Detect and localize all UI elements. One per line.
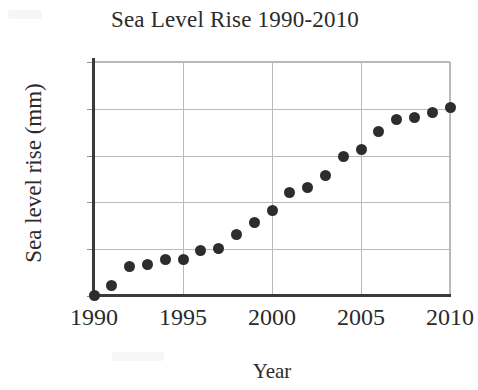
gridline-vertical (361, 62, 362, 295)
data-point-marker (267, 205, 278, 216)
data-point-marker (249, 217, 260, 228)
gridline-vertical (272, 62, 273, 295)
data-point-marker (427, 107, 438, 118)
data-point-marker (213, 243, 224, 254)
chart-title: Sea Level Rise 1990-2010 (0, 6, 470, 34)
data-point-marker (445, 102, 456, 113)
x-tick-label: 2010 (395, 303, 478, 331)
x-axis-title: Year (94, 358, 450, 384)
gridline-vertical (450, 62, 451, 295)
y-axis-spine (92, 58, 95, 298)
y-axis-title: Sea level rise (mm) (19, 43, 49, 303)
data-point-marker (178, 254, 189, 265)
data-point-marker (302, 182, 313, 193)
data-point-marker (409, 112, 420, 123)
x-axis-spine (93, 294, 451, 297)
data-point-marker (284, 187, 295, 198)
data-point-marker (142, 259, 153, 270)
data-point-marker (356, 144, 367, 155)
data-point-marker (89, 290, 100, 301)
data-point-marker (373, 126, 384, 137)
data-point-marker (231, 229, 242, 240)
y-axis-title-text: Sea level rise (mm) (19, 43, 49, 303)
data-point-marker (320, 170, 331, 181)
